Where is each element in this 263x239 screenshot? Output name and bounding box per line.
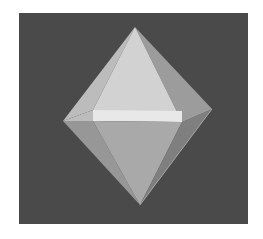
equator-band xyxy=(93,110,182,122)
octahedron-scene xyxy=(0,0,263,239)
octahedron-illustration xyxy=(0,0,263,239)
